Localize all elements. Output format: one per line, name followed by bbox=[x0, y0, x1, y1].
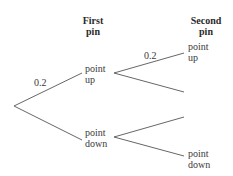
branch-root-down bbox=[14, 106, 82, 140]
node-second-up: point up bbox=[188, 41, 209, 63]
branch-down-down bbox=[114, 137, 184, 156]
branch-down-up bbox=[114, 117, 184, 137]
probability-first-up: 0.2 bbox=[34, 77, 47, 88]
node-first-down: point down bbox=[85, 127, 107, 149]
branch-root-up bbox=[14, 73, 82, 106]
node-second-down: point down bbox=[188, 148, 210, 170]
branch-up-down bbox=[114, 73, 184, 92]
probability-second-up: 0.2 bbox=[144, 50, 157, 61]
header-first-pin: First pin bbox=[76, 15, 110, 37]
header-second-pin: Second pin bbox=[186, 15, 226, 37]
node-first-up: point up bbox=[85, 63, 106, 85]
